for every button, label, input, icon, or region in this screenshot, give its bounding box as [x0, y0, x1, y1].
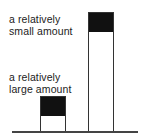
label-large-line1: a relatively [9, 71, 72, 83]
label-large-amount: a relatively large amount [9, 71, 72, 95]
tall-bar-fill [89, 13, 113, 32]
label-large-line2: large amount [9, 83, 72, 95]
label-small-line2: small amount [9, 25, 73, 37]
baseline [12, 131, 138, 133]
short-bar [40, 96, 66, 131]
label-small-amount: a relatively small amount [9, 13, 73, 37]
tall-bar [88, 12, 114, 131]
label-small-line1: a relatively [9, 13, 73, 25]
short-bar-fill [41, 97, 65, 116]
